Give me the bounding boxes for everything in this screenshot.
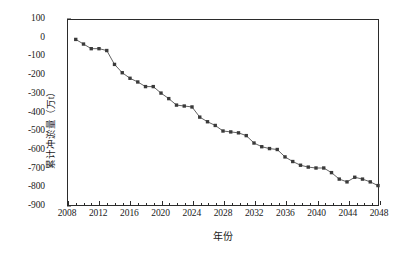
y-tick-label: -900 [28, 201, 45, 211]
data-point [291, 160, 294, 163]
x-tick-mark [349, 201, 350, 205]
x-tick-minor [201, 203, 202, 206]
x-tick-label: 2048 [370, 209, 389, 219]
x-tick-minor [107, 203, 108, 206]
x-tick-minor [123, 203, 124, 206]
data-point [361, 177, 364, 180]
x-tick-minor [216, 203, 217, 206]
data-point [175, 103, 178, 106]
x-tick-minor [263, 203, 264, 206]
data-point [229, 130, 232, 133]
x-tick-minor [240, 203, 241, 206]
y-axis-title: 累计冲淤量（万t） [43, 86, 57, 169]
data-point [128, 77, 131, 80]
data-point [206, 120, 209, 123]
data-point [283, 155, 286, 158]
y-tick-label: -800 [28, 183, 45, 193]
x-tick-minor [177, 203, 178, 206]
data-point [245, 134, 248, 137]
data-point [369, 180, 372, 183]
data-point [345, 180, 348, 183]
data-point [190, 105, 193, 108]
data-point [314, 166, 317, 169]
x-tick-minor [76, 203, 77, 206]
x-tick-label: 2024 [182, 209, 201, 219]
x-tick-minor [341, 203, 342, 206]
x-axis-title: 年份 [213, 228, 233, 243]
x-tick-minor [279, 203, 280, 206]
data-point [136, 80, 139, 83]
data-point [353, 176, 356, 179]
x-tick-mark [162, 201, 163, 205]
data-point [214, 124, 217, 127]
x-tick-label: 2008 [58, 209, 77, 219]
x-tick-label: 2012 [89, 209, 108, 219]
y-tick-label: 100 [31, 14, 45, 24]
x-tick-mark [193, 201, 194, 205]
x-tick-minor [247, 203, 248, 206]
data-point [299, 164, 302, 167]
data-point [144, 85, 147, 88]
x-tick-minor [333, 203, 334, 206]
chart-figure: 1000-100-200-300-400-500-600-700-800-900… [0, 0, 407, 255]
data-point [307, 165, 310, 168]
data-point [97, 47, 100, 50]
data-point [105, 49, 108, 52]
x-tick-minor [232, 203, 233, 206]
data-point [376, 184, 379, 187]
x-tick-minor [325, 203, 326, 206]
x-tick-label: 2028 [214, 209, 233, 219]
data-point [113, 63, 116, 66]
x-tick-minor [357, 203, 358, 206]
x-tick-minor [84, 203, 85, 206]
x-tick-minor [185, 203, 186, 206]
x-tick-label: 2044 [338, 209, 357, 219]
series-line [76, 39, 378, 185]
data-point [322, 166, 325, 169]
x-tick-minor [302, 203, 303, 206]
data-point [252, 141, 255, 144]
y-tick-label: -200 [28, 70, 45, 80]
data-point [338, 177, 341, 180]
x-tick-minor [271, 203, 272, 206]
x-tick-mark [130, 201, 131, 205]
y-tick-label: 0 [40, 33, 45, 43]
x-tick-label: 2040 [307, 209, 326, 219]
data-point [82, 42, 85, 45]
data-series [68, 20, 378, 205]
data-point [237, 131, 240, 134]
data-point [152, 85, 155, 88]
x-tick-mark [318, 201, 319, 205]
data-point [159, 91, 162, 94]
x-tick-mark [99, 201, 100, 205]
x-tick-minor [310, 203, 311, 206]
x-tick-mark [68, 201, 69, 205]
data-point [330, 171, 333, 174]
x-tick-minor [146, 203, 147, 206]
data-point [121, 71, 124, 74]
x-tick-minor [294, 203, 295, 206]
x-tick-minor [372, 203, 373, 206]
x-tick-mark [255, 201, 256, 205]
x-tick-label: 2032 [245, 209, 264, 219]
x-tick-mark [224, 201, 225, 205]
x-tick-minor [169, 203, 170, 206]
x-tick-mark [380, 201, 381, 205]
data-point [167, 97, 170, 100]
x-tick-minor [208, 203, 209, 206]
data-point [268, 147, 271, 150]
x-tick-minor [115, 203, 116, 206]
plot-area [67, 19, 379, 206]
data-point [276, 148, 279, 151]
x-tick-minor [138, 203, 139, 206]
x-tick-label: 2016 [120, 209, 139, 219]
x-tick-minor [364, 203, 365, 206]
data-point [221, 129, 224, 132]
data-point [183, 104, 186, 107]
x-tick-label: 2020 [151, 209, 170, 219]
x-tick-mark [286, 201, 287, 205]
data-point [260, 145, 263, 148]
data-point [90, 47, 93, 50]
y-tick-label: -100 [28, 52, 45, 62]
x-tick-minor [91, 203, 92, 206]
